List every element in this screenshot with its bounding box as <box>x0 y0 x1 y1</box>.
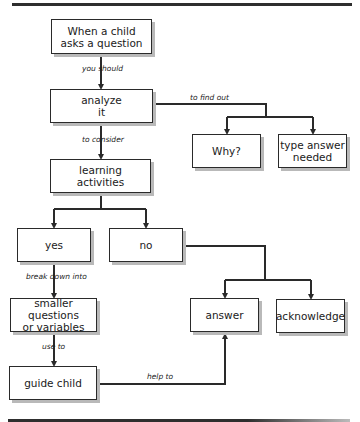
node-type-answer: type answerneeded <box>278 134 347 168</box>
node-no: no <box>109 228 183 262</box>
node-guide-label: guide child <box>24 377 82 389</box>
node-answer-label: answer <box>206 309 244 321</box>
edge-label-break-down-into: break down into <box>26 272 87 281</box>
flowchart-connectors <box>0 0 360 422</box>
node-type-answer-line-1: type answer <box>280 139 345 151</box>
node-no-label: no <box>139 239 152 251</box>
node-guide: guide child <box>9 366 97 400</box>
node-learning-line-2: activities <box>77 176 124 188</box>
node-smaller-line-1: smaller questions <box>11 297 96 321</box>
edge-label-help-to: help to <box>147 372 173 381</box>
edge-label-use-to: use to <box>42 342 65 351</box>
node-answer: answer <box>190 298 259 332</box>
node-why-label: Why? <box>212 145 241 157</box>
node-acknowledge-label: acknowledge <box>276 310 345 322</box>
node-yes-label: yes <box>45 239 63 251</box>
node-analyze-line-1: analyze <box>81 94 122 106</box>
edge-label-you-should: you should <box>82 64 123 73</box>
node-start-line-2: asks a question <box>61 37 143 49</box>
node-start-line-1: When a child <box>61 25 143 37</box>
edge-label-to-find-out: to find out <box>190 93 229 102</box>
node-why: Why? <box>192 134 261 168</box>
edge-analyze-branch <box>153 104 266 117</box>
node-smaller-line-2: or variables <box>11 321 96 333</box>
edge-label-to-consider: to consider <box>82 135 124 144</box>
node-analyze-line-2: it <box>81 106 122 118</box>
node-analyze: analyzeit <box>50 89 153 123</box>
node-acknowledge: acknowledge <box>276 299 345 333</box>
node-smaller: smaller questionsor variables <box>10 298 97 332</box>
node-type-answer-line-2: needed <box>280 151 345 163</box>
node-yes: yes <box>17 228 91 262</box>
node-start: When a childasks a question <box>51 19 152 54</box>
node-learning-line-1: learning <box>77 164 124 176</box>
node-learning: learningactivities <box>50 159 151 193</box>
edge-no-branch <box>183 246 265 280</box>
